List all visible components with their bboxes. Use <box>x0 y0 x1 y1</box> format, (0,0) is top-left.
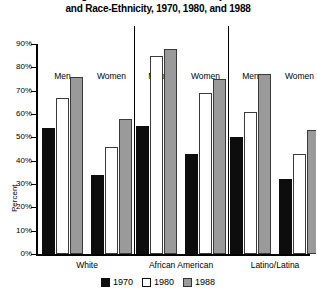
bar <box>119 119 132 254</box>
bar <box>293 154 306 254</box>
y-tick-label: 80% <box>6 63 32 71</box>
legend-item: 1970 <box>101 277 133 287</box>
y-tick <box>31 91 37 92</box>
bar <box>56 98 69 254</box>
legend-swatch-icon <box>101 278 110 287</box>
legend-label: 1988 <box>195 277 215 287</box>
y-tick-label: 40% <box>6 157 32 165</box>
bar <box>230 137 243 254</box>
bar <box>91 175 104 254</box>
chart-legend: 197019801988 <box>0 277 316 287</box>
legend-item: 1980 <box>142 277 174 287</box>
plot-area: MenWomenMenWomenMenWomen <box>38 44 310 254</box>
legend-item: 1988 <box>183 277 215 287</box>
bar <box>199 93 212 254</box>
legend-swatch-icon <box>183 278 192 287</box>
group-separator <box>228 26 229 254</box>
group-separator <box>134 26 135 254</box>
y-tick <box>31 231 37 232</box>
bar <box>164 49 177 254</box>
y-tick-label: 70% <box>6 87 32 95</box>
bar <box>213 79 226 254</box>
legend-label: 1980 <box>154 277 174 287</box>
y-tick <box>31 114 37 115</box>
chart-title-line-1: High School Graduation Rates by Sex <box>0 0 316 1</box>
y-tick-label: 90% <box>6 40 32 48</box>
bar <box>307 130 316 254</box>
y-tick <box>31 161 37 162</box>
category-label: Latino/Latina <box>225 260 316 270</box>
bar <box>70 77 83 254</box>
bar <box>136 126 149 254</box>
y-tick-label: 0% <box>6 250 32 258</box>
y-tick <box>31 184 37 185</box>
y-tick <box>31 207 37 208</box>
y-tick-label: 60% <box>6 110 32 118</box>
bar-chart: High School Graduation Rates by Sex and … <box>0 0 316 295</box>
y-tick <box>31 254 37 255</box>
sub-label-women: Women <box>275 71 317 81</box>
y-tick <box>31 44 37 45</box>
y-tick <box>31 67 37 68</box>
y-axis-title: Percent <box>8 170 20 230</box>
legend-swatch-icon <box>142 278 151 287</box>
bar <box>150 56 163 254</box>
bar <box>244 112 257 254</box>
y-tick <box>31 137 37 138</box>
chart-title: High School Graduation Rates by Sex and … <box>0 0 316 18</box>
chart-title-line-2: and Race-Ethnicity, 1970, 1980, and 1988 <box>0 3 316 14</box>
legend-label: 1970 <box>113 277 133 287</box>
sub-label-women: Women <box>87 71 137 81</box>
y-tick-label: 50% <box>6 133 32 141</box>
x-axis-line <box>36 254 310 256</box>
bar <box>279 179 292 254</box>
y-axis-title-label: Percent <box>10 184 19 212</box>
bar <box>42 128 55 254</box>
category-label: African American <box>131 260 231 270</box>
bar <box>105 147 118 254</box>
bar <box>258 74 271 254</box>
category-label: White <box>37 260 137 270</box>
bar <box>185 154 198 254</box>
